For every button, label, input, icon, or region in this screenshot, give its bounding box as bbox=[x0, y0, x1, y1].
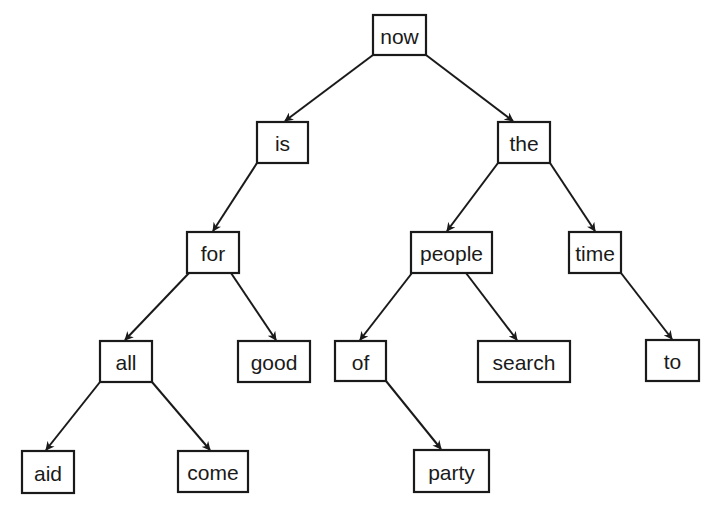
tree-node-all: all bbox=[100, 341, 152, 382]
binary-search-tree-diagram: nowistheforpeopletimeallgoodofsearchtoai… bbox=[0, 0, 710, 509]
node-label: time bbox=[575, 242, 615, 265]
tree-node-to: to bbox=[646, 340, 699, 381]
tree-node-good: good bbox=[238, 341, 310, 382]
node-label: now bbox=[380, 25, 419, 48]
tree-node-the: the bbox=[498, 122, 550, 163]
edge-arrow-now-to-is bbox=[285, 55, 373, 121]
tree-node-of: of bbox=[335, 341, 386, 381]
edge-arrow-the-to-people bbox=[447, 163, 498, 231]
edge-arrow-for-to-all bbox=[125, 273, 189, 340]
tree-node-party: party bbox=[414, 450, 489, 492]
edge-arrow-time-to-to bbox=[621, 273, 672, 339]
edge-arrow-is-to-for bbox=[213, 163, 257, 231]
node-label: all bbox=[115, 351, 136, 374]
edge-arrow-for-to-good bbox=[231, 273, 276, 340]
node-label: people bbox=[420, 242, 483, 265]
node-label: the bbox=[509, 132, 538, 155]
node-label: for bbox=[201, 242, 226, 265]
tree-node-people: people bbox=[411, 232, 492, 273]
edge-arrow-all-to-come bbox=[152, 382, 210, 450]
node-label: is bbox=[275, 132, 290, 155]
node-label: come bbox=[187, 461, 238, 484]
node-label: to bbox=[664, 350, 682, 373]
tree-node-aid: aid bbox=[22, 451, 74, 493]
edge-arrow-people-to-of bbox=[360, 273, 412, 340]
edge-arrow-the-to-time bbox=[550, 163, 595, 231]
nodes-layer: nowistheforpeopletimeallgoodofsearchtoai… bbox=[22, 15, 699, 493]
tree-node-come: come bbox=[178, 451, 248, 492]
node-label: of bbox=[352, 351, 370, 374]
tree-node-for: for bbox=[187, 232, 239, 273]
edge-arrow-now-to-the bbox=[426, 55, 513, 121]
node-label: party bbox=[428, 461, 475, 484]
node-label: search bbox=[492, 351, 555, 374]
node-label: good bbox=[251, 351, 298, 374]
node-label: aid bbox=[34, 462, 62, 485]
tree-node-search: search bbox=[478, 341, 570, 382]
edge-arrow-all-to-aid bbox=[46, 382, 100, 450]
tree-node-is: is bbox=[257, 122, 308, 163]
tree-node-time: time bbox=[569, 232, 621, 273]
tree-node-now: now bbox=[373, 15, 426, 55]
edge-arrow-of-to-party bbox=[386, 381, 441, 449]
edge-arrow-people-to-search bbox=[466, 273, 517, 340]
